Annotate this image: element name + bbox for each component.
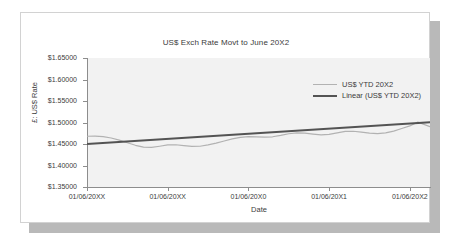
legend-item-0: US$ YTD 20X2 bbox=[313, 79, 421, 90]
x-axis-tick bbox=[329, 187, 330, 191]
x-axis-tick-label: 01/06/20XX bbox=[57, 193, 117, 200]
y-axis-title: £: US$ Rate bbox=[30, 68, 39, 138]
y-axis-tick-label: $1.40000 bbox=[48, 162, 77, 169]
chart-title: US$ Exch Rate Movt to June 20X2 bbox=[21, 38, 431, 47]
y-axis-tick-label: $1.50000 bbox=[48, 119, 77, 126]
chart-legend: US$ YTD 20X2 Linear (US$ YTD 20X2) bbox=[313, 79, 421, 101]
x-axis-tick bbox=[248, 187, 249, 191]
x-axis-tick-label: 01/06/20X2 bbox=[380, 193, 440, 200]
y-axis-tick-label: $1.55000 bbox=[48, 97, 77, 104]
x-axis-tick-label: 01/06/20XX bbox=[138, 193, 198, 200]
x-axis-tick-label: 01/06/20X0 bbox=[218, 193, 278, 200]
legend-item-1: Linear (US$ YTD 20X2) bbox=[313, 90, 421, 101]
chart-card: US$ Exch Rate Movt to June 20X2 $1.65000… bbox=[20, 12, 430, 223]
legend-line-icon-series-0 bbox=[313, 84, 337, 85]
x-axis-line bbox=[87, 187, 431, 188]
legend-label-series-0: US$ YTD 20X2 bbox=[342, 80, 393, 89]
x-axis-tick bbox=[410, 187, 411, 191]
x-axis-title: Date bbox=[87, 205, 431, 214]
x-axis-tick bbox=[168, 187, 169, 191]
x-axis-tick-label: 01/06/20X1 bbox=[299, 193, 359, 200]
legend-line-icon-series-1 bbox=[313, 95, 337, 97]
legend-label-series-1: Linear (US$ YTD 20X2) bbox=[342, 91, 421, 100]
y-axis-tick-label: $1.60000 bbox=[48, 76, 77, 83]
y-axis-tick-label: $1.35000 bbox=[48, 183, 77, 190]
y-axis-tick-label: $1.45000 bbox=[48, 140, 77, 147]
plot-series-canvas bbox=[87, 58, 430, 187]
screenshot-root: US$ Exch Rate Movt to June 20X2 $1.65000… bbox=[0, 0, 457, 249]
x-axis-tick bbox=[87, 187, 88, 191]
y-axis-tick-label: $1.65000 bbox=[48, 54, 77, 61]
